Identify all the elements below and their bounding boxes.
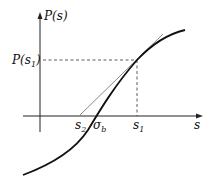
s2-sub: 2: [81, 125, 86, 134]
p-s1-label: P(s1): [12, 54, 41, 66]
s2-label: s2: [75, 119, 86, 131]
y-axis-arrow-icon: [38, 12, 43, 19]
s1-sub: 1: [139, 125, 144, 134]
figure: P(s) P(s1) s2 σb s1 s: [0, 0, 207, 187]
x-axis-label: s: [194, 119, 200, 131]
p-curve: [23, 30, 185, 175]
y-axis-label: P(s): [44, 10, 68, 22]
p-s1-sub: 1: [31, 60, 36, 69]
sigma-b-label: σb: [93, 119, 106, 131]
sigma-b-main: σ: [93, 118, 101, 132]
s1-label: s1: [133, 119, 144, 131]
p-s1-main: P(s: [12, 53, 31, 67]
sigma-b-sub: b: [101, 125, 106, 134]
p-s1-close: ): [36, 53, 41, 67]
plot-canvas: [0, 0, 207, 187]
tangent-line: [80, 34, 163, 115]
